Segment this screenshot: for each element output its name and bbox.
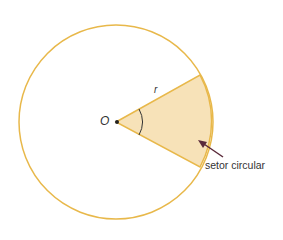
sector-fill — [116, 75, 212, 167]
radius-label: r — [154, 84, 157, 95]
diagram-graphic — [0, 0, 283, 240]
center-label: O — [100, 114, 109, 128]
sector-label: setor circular — [205, 159, 265, 171]
circular-sector-diagram: O r setor circular — [0, 0, 283, 240]
center-point — [115, 120, 119, 124]
